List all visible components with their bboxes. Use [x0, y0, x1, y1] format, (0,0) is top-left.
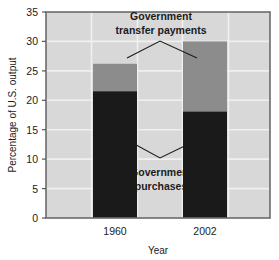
bar-1960-transfers	[93, 64, 137, 95]
x-tick-1960: 1960	[103, 225, 127, 237]
x-tick-2002: 2002	[193, 225, 217, 237]
y-tick-5: 5	[32, 183, 38, 195]
bar-2002-transfers	[183, 41, 227, 111]
bar-2002-purchases	[183, 112, 227, 219]
y-tick-0: 0	[32, 212, 38, 224]
y-axis-title: Percentage of U.S. output	[7, 57, 18, 172]
annotation-transfers-line2: transfer payments	[115, 24, 206, 36]
annotation-purchases-line1: Government	[130, 166, 192, 178]
y-tick-30: 30	[26, 35, 38, 47]
y-tick-20: 20	[26, 94, 38, 106]
y-tick-15: 15	[26, 124, 38, 136]
chart-canvas: 35 30 25 20 15 10 5 0 Percentage of U.S.…	[0, 0, 279, 260]
x-axis-title: Year	[148, 245, 169, 256]
y-tick-25: 25	[26, 65, 38, 77]
annotation-transfers-line1: Government	[130, 10, 192, 22]
bar-1960-purchases	[93, 91, 137, 218]
annotation-purchases-line2: purchases	[135, 180, 188, 192]
y-tick-10: 10	[26, 153, 38, 165]
stacked-bar-chart: 35 30 25 20 15 10 5 0 Percentage of U.S.…	[0, 0, 279, 260]
y-tick-35: 35	[26, 6, 38, 18]
